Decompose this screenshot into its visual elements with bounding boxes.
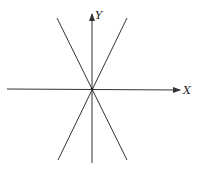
origin-point (91, 88, 94, 91)
x-axis-label: X (182, 84, 192, 97)
y-axis-label: Y (95, 9, 104, 22)
x-axis (7, 89, 180, 90)
coordinate-diagram: X Y (0, 0, 206, 174)
